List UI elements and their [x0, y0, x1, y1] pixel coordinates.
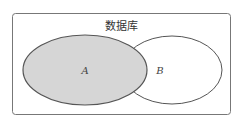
diagram-title: 数据库	[105, 19, 138, 33]
set-a-label: A	[80, 65, 88, 76]
venn-diagram: 数据库 A B	[0, 0, 241, 125]
set-b-label: B	[155, 65, 163, 76]
